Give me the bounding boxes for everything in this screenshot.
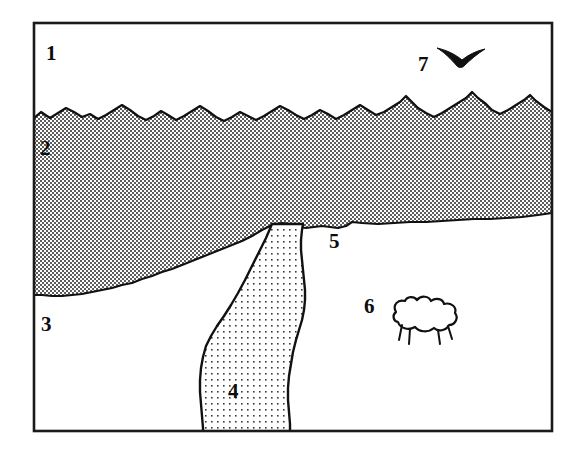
- region-label-5: 5: [329, 229, 340, 253]
- region-label-4: 4: [228, 379, 239, 403]
- region-label-1: 1: [46, 41, 57, 65]
- region-label-3: 3: [41, 312, 52, 336]
- region-label-2: 2: [40, 136, 51, 160]
- region-label-6: 6: [364, 294, 375, 318]
- region-label-7: 7: [418, 52, 429, 76]
- landscape-diagram: 1 2 3 4 5 6 7: [0, 0, 576, 454]
- figure-canvas: 1 2 3 4 5 6 7: [0, 0, 576, 454]
